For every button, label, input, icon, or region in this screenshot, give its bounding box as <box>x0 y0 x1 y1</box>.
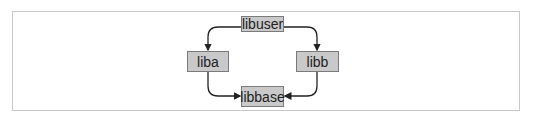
edge-libb-libbase <box>285 72 317 96</box>
node-libbase: libbase <box>241 86 284 107</box>
edge-liba-libbase <box>208 72 240 96</box>
edge-libuser-libb <box>283 27 317 50</box>
node-liba: liba <box>187 51 229 72</box>
node-libuser: libuser <box>241 16 284 32</box>
edge-libuser-liba <box>208 27 241 50</box>
node-libb: libb <box>296 51 339 72</box>
